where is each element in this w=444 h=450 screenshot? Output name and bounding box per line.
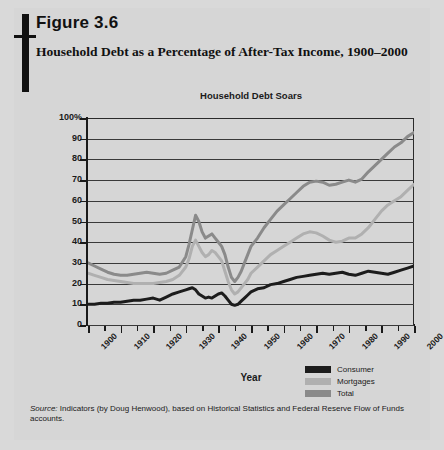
source-text: Indicators (by Doug Henwood), based on H…: [30, 404, 404, 423]
legend-item: Mortgages: [305, 376, 375, 386]
y-tick-mark: [80, 180, 86, 182]
source-label: Source:: [30, 404, 58, 413]
x-tick-mark: [235, 326, 237, 331]
x-tick-mark: [121, 326, 123, 333]
y-tick-label: 30: [6, 257, 82, 267]
chart-legend: ConsumerMortgagesTotal: [305, 364, 375, 400]
x-tick-mark: [170, 326, 172, 331]
x-tick-mark: [284, 326, 286, 333]
x-tick-mark: [398, 326, 400, 331]
y-tick-mark: [80, 139, 86, 141]
series-line-mortgages: [88, 184, 414, 294]
y-tick-label: 50: [6, 216, 82, 226]
y-tick-mark: [80, 325, 86, 327]
y-tick-label: 100%: [6, 112, 82, 122]
x-tick-mark: [365, 326, 367, 331]
y-tick-mark: [80, 118, 86, 120]
legend-swatch-mortgages: [305, 378, 331, 385]
x-tick-mark: [137, 326, 139, 331]
legend-label: Consumer: [337, 365, 374, 374]
y-tick-label: 40: [6, 236, 82, 246]
legend-label: Mortgages: [337, 377, 375, 386]
plot-area: [88, 118, 414, 325]
legend-item: Total: [305, 388, 375, 398]
legend-label: Total: [337, 389, 354, 398]
y-tick-mark: [80, 242, 86, 244]
y-tick-mark: [80, 284, 86, 286]
y-tick-label: 90: [6, 133, 82, 143]
y-tick-mark: [80, 222, 86, 224]
legend-swatch-total: [305, 390, 331, 397]
legend-swatch-consumer: [305, 366, 331, 373]
x-tick-mark: [251, 326, 253, 333]
y-tick-label: 60: [6, 195, 82, 205]
legend-item: Consumer: [305, 364, 375, 374]
x-tick-mark: [414, 326, 416, 333]
y-tick-mark: [80, 304, 86, 306]
series-lines: [88, 118, 414, 325]
x-tick-mark: [300, 326, 302, 331]
y-tick-mark: [80, 263, 86, 265]
y-tick-label: 20: [6, 278, 82, 288]
x-tick-mark: [267, 326, 269, 331]
y-axis-labels: 100%9080706050403020100: [0, 0, 82, 450]
x-tick-mark: [218, 326, 220, 333]
x-tick-mark: [381, 326, 383, 333]
chart-title: Household Debt Soars: [88, 90, 414, 101]
y-tick-mark: [80, 201, 86, 203]
x-tick-mark: [186, 326, 188, 333]
y-tick-label: 70: [6, 174, 82, 184]
source-note: Source: Indicators (by Doug Henwood), ba…: [30, 404, 420, 424]
y-tick-label: 10: [6, 298, 82, 308]
x-tick-mark: [88, 326, 90, 333]
y-tick-mark: [80, 159, 86, 161]
x-tick-mark: [349, 326, 351, 333]
x-tick-mark: [104, 326, 106, 331]
series-line-total: [88, 132, 414, 281]
figure-title: Household Debt as a Percentage of After-…: [36, 44, 426, 59]
y-tick-label: 80: [6, 153, 82, 163]
figure-page: Figure 3.6 Household Debt as a Percentag…: [0, 0, 444, 450]
x-tick-mark: [153, 326, 155, 333]
x-tick-mark: [202, 326, 204, 331]
y-tick-label: 0: [6, 319, 82, 329]
x-tick-mark: [333, 326, 335, 331]
x-tick-mark: [316, 326, 318, 333]
